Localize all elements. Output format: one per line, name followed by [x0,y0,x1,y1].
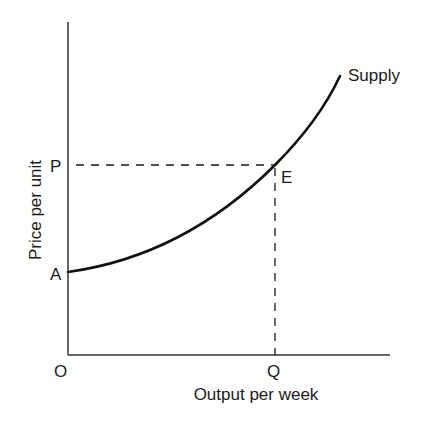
x-axis-title: Output per week [194,385,319,404]
y-axis-title: Price per unit [26,160,45,260]
supply-chart: Price per unit Output per week P A O Q E… [0,0,432,428]
quantity-label-q: Q [267,362,280,381]
supply-curve-label: Supply [348,66,400,85]
supply-curve [68,76,340,272]
origin-label-o: O [54,362,67,381]
equilibrium-label-e: E [281,168,292,187]
intercept-label-a: A [50,265,62,284]
price-label-p: P [50,157,61,176]
